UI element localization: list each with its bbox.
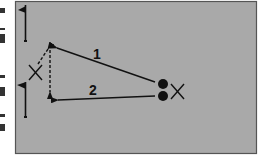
drill-diagram: 1 2: [0, 0, 261, 163]
pass-label-1: 1: [93, 46, 101, 62]
field: [16, 2, 257, 154]
pass-label-2: 2: [89, 82, 97, 98]
ball-icon: [158, 91, 168, 101]
ball-icon: [158, 79, 168, 89]
